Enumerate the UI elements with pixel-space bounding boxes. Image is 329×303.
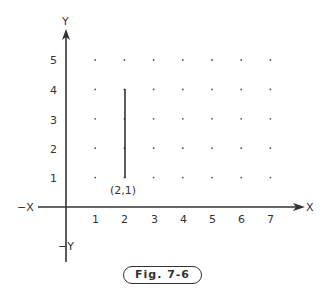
grid-dot <box>182 89 184 91</box>
grid-dot <box>211 89 213 91</box>
grid-dot <box>240 89 242 91</box>
grid-dot <box>153 89 155 91</box>
dot-grid <box>94 59 271 178</box>
svg-text:4: 4 <box>50 84 57 97</box>
svg-text:6: 6 <box>238 213 245 226</box>
grid-dot <box>240 177 242 179</box>
svg-text:3: 3 <box>151 213 158 226</box>
grid-dot <box>270 59 272 61</box>
grid-dot <box>94 89 96 91</box>
y-axis-label: Y <box>61 15 69 28</box>
svg-text:3: 3 <box>50 114 57 127</box>
grid-dot <box>211 59 213 61</box>
grid-dot <box>270 177 272 179</box>
x-axis-label: X <box>306 201 314 214</box>
coordinate-diagram: Y −Y X −X 1 2 3 4 5 6 7 1 2 3 4 5 (2,1) <box>0 0 329 303</box>
grid-dot <box>270 89 272 91</box>
grid-dot <box>182 177 184 179</box>
grid-dot <box>94 59 96 61</box>
svg-text:5: 5 <box>50 54 57 67</box>
grid-dot <box>211 118 213 120</box>
grid-dot <box>240 118 242 120</box>
grid-dot <box>124 59 126 61</box>
svg-text:1: 1 <box>92 213 99 226</box>
grid-dot <box>240 59 242 61</box>
x-tick-labels: 1 2 3 4 5 6 7 <box>92 213 274 226</box>
grid-dot <box>211 177 213 179</box>
grid-dot <box>270 118 272 120</box>
grid-dot <box>153 59 155 61</box>
grid-dot <box>182 118 184 120</box>
grid-dot <box>94 177 96 179</box>
grid-dot <box>182 59 184 61</box>
neg-y-axis-label: −Y <box>58 240 74 253</box>
grid-dot <box>94 118 96 120</box>
y-tick-labels: 1 2 3 4 5 <box>50 54 57 185</box>
grid-dot <box>94 147 96 149</box>
svg-text:1: 1 <box>50 172 57 185</box>
svg-text:2: 2 <box>50 143 57 156</box>
neg-x-axis-label: −X <box>17 201 34 214</box>
svg-text:7: 7 <box>267 213 274 226</box>
grid-dot <box>211 147 213 149</box>
grid-dot <box>153 147 155 149</box>
grid-dot <box>240 147 242 149</box>
grid-dot <box>153 118 155 120</box>
svg-text:4: 4 <box>180 213 187 226</box>
figure-caption: Fig. 7-6 <box>123 266 202 284</box>
point-label: (2,1) <box>110 184 136 197</box>
grid-dot <box>153 177 155 179</box>
svg-text:5: 5 <box>209 213 216 226</box>
grid-dot <box>270 147 272 149</box>
svg-text:2: 2 <box>121 213 128 226</box>
grid-dot <box>182 147 184 149</box>
